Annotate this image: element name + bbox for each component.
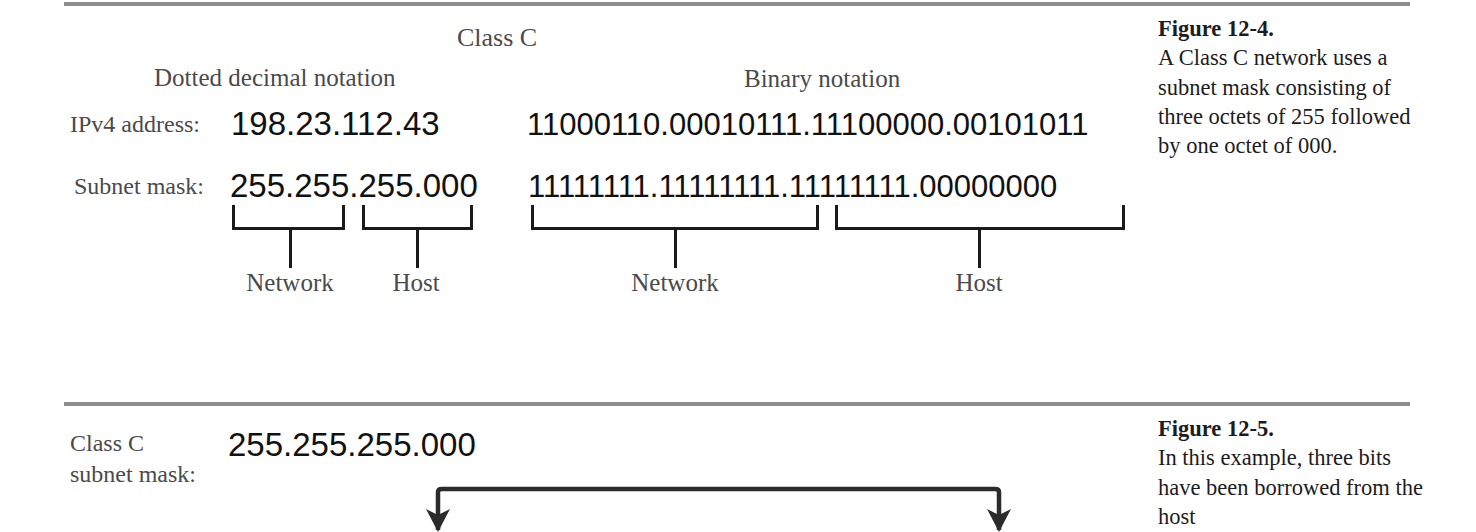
bracket-decimal-host <box>362 205 473 230</box>
bracket-stem-decimal-network <box>289 230 292 268</box>
caption-figure-12-4: Figure 12-4. A Class C network uses a su… <box>1158 14 1430 160</box>
caption-figure-12-5: Figure 12-5. In this example, three bits… <box>1158 414 1430 531</box>
caption-body-12-4: A Class C network uses a subnet mask con… <box>1158 43 1430 160</box>
double-headed-down-arrow <box>425 483 1025 532</box>
ipv4-address-binary-value: 11000110.00010111.11100000.00101011 <box>527 107 1088 143</box>
figure-divider-rule-top <box>64 2 1410 6</box>
row-label-ipv4-address: IPv4 address: <box>70 112 200 137</box>
caption-body-12-5: In this example, three bits have been bo… <box>1158 443 1430 531</box>
bracket-stem-decimal-host <box>416 230 419 268</box>
column-header-binary: Binary notation <box>744 66 900 92</box>
caption-heading-12-4: Figure 12-4. <box>1158 14 1430 43</box>
figure-divider-rule-middle <box>64 402 1410 406</box>
row-label-line-1: Class C <box>70 430 144 456</box>
figure-page: Class C Dotted decimal notation Binary n… <box>0 0 1476 532</box>
bracket-binary-network <box>531 205 819 230</box>
bracket-label-decimal-network: Network <box>246 269 333 297</box>
row-label-line-2: subnet mask: <box>70 461 196 487</box>
row-label-class-c-subnet-mask: Class C subnet mask: <box>70 428 196 489</box>
bracket-decimal-network <box>232 205 345 230</box>
class-c-subnet-mask-value: 255.255.255.000 <box>228 426 476 464</box>
column-header-dotted-decimal: Dotted decimal notation <box>154 65 396 91</box>
bracket-stem-binary-network <box>674 230 677 268</box>
bracket-stem-binary-host <box>978 230 981 268</box>
caption-heading-12-5: Figure 12-5. <box>1158 414 1430 443</box>
row-label-subnet-mask: Subnet mask: <box>74 174 204 199</box>
bracket-binary-host <box>835 205 1125 230</box>
bracket-label-binary-network: Network <box>631 269 718 297</box>
bracket-label-binary-host: Host <box>955 269 1002 297</box>
subnet-mask-dotted-decimal-value: 255.255.255.000 <box>230 167 478 205</box>
figure-12-4-title: Class C <box>457 24 537 51</box>
bracket-label-decimal-host: Host <box>392 269 439 297</box>
subnet-mask-binary-value: 11111111.11111111.11111111.00000000 <box>528 169 1057 205</box>
ipv4-address-dotted-decimal-value: 198.23.112.43 <box>231 105 440 143</box>
